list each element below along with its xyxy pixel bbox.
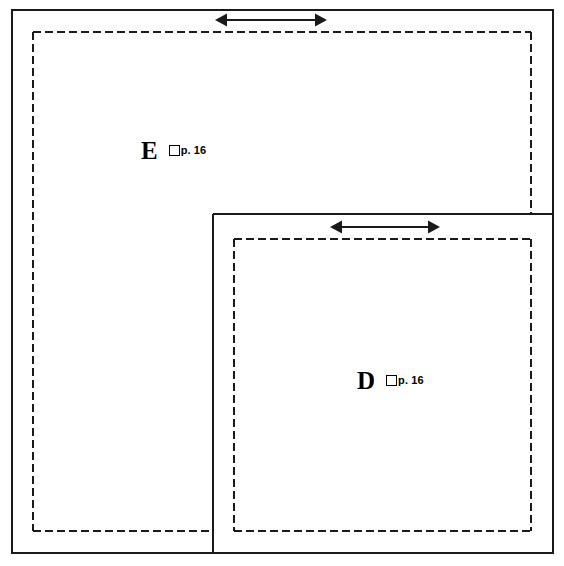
- region-e-inner-dashed-rect: [33, 32, 531, 531]
- diagram-svg: [0, 0, 564, 566]
- arrow-margin-e: [215, 14, 327, 27]
- region-e-page-label: p. 16: [181, 145, 207, 156]
- region-d-page-label: p. 16: [398, 375, 424, 386]
- arrow-margin-d: [330, 221, 440, 234]
- region-d-letter: D: [357, 368, 375, 393]
- arrow-margin-e-head-left: [215, 14, 227, 27]
- diagram-canvas: E p. 16 D p. 16: [0, 0, 564, 566]
- arrow-margin-e-head-right: [315, 14, 327, 27]
- region-d-label: D p. 16: [357, 368, 424, 393]
- region-d-checkbox-icon[interactable]: [386, 375, 397, 386]
- region-e-outer-solid-rect: [12, 10, 553, 553]
- region-e-label: E p. 16: [141, 138, 206, 163]
- region-e-checkbox-icon[interactable]: [169, 145, 180, 156]
- arrow-margin-d-head-left: [330, 221, 342, 234]
- arrow-margin-d-head-right: [428, 221, 440, 234]
- region-e-letter: E: [141, 138, 158, 163]
